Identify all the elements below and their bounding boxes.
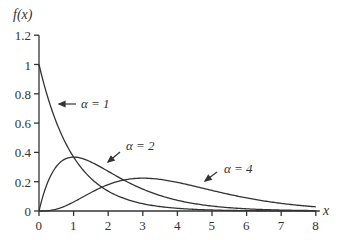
y-tick-label: 1.2	[15, 29, 31, 42]
curve-alpha-1	[39, 65, 316, 211]
y-axis-label: f(x)	[13, 8, 32, 22]
curve-alpha-4	[39, 178, 316, 211]
x-tick-label: 2	[105, 219, 112, 232]
x-tick-label: 3	[139, 219, 146, 232]
axes	[34, 35, 320, 216]
y-tick-label: 0.8	[15, 88, 31, 101]
x-tick-label: 0	[36, 219, 43, 232]
y-tick-label: 1	[25, 59, 32, 72]
x-tick-label: 7	[278, 219, 285, 232]
arrow-alpha-1-head	[59, 102, 65, 107]
annotation-alpha-1: α = 1	[81, 97, 110, 110]
x-tick-label: 4	[174, 219, 181, 232]
curves	[39, 65, 316, 212]
y-tick-label: 0.4	[15, 146, 31, 159]
y-tick-label: 0.2	[15, 176, 31, 189]
gamma-density-plot	[0, 0, 346, 240]
x-tick-label: 1	[70, 219, 77, 232]
y-tick-label: 0	[25, 205, 32, 218]
annotation-alpha-2: α = 2	[126, 139, 155, 152]
x-tick-label: 6	[243, 219, 250, 232]
x-tick-label: 8	[312, 219, 319, 232]
x-tick-label: 5	[209, 219, 216, 232]
annotation-alpha-4: α = 4	[224, 162, 253, 175]
y-tick-label: 0.6	[15, 117, 31, 130]
x-axis-label: x	[323, 204, 329, 218]
